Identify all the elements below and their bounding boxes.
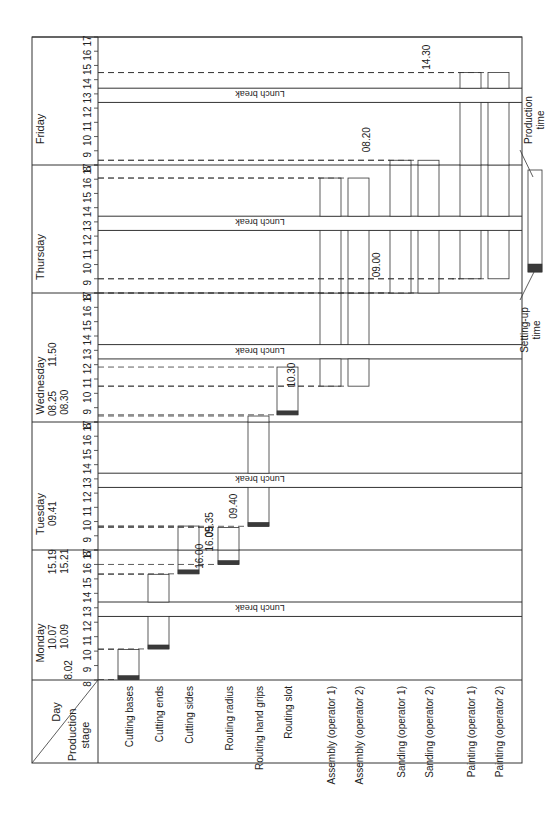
time-annotation: 10.09	[59, 623, 70, 648]
task-bar	[218, 527, 239, 550]
hour-tick-label: 8	[82, 423, 93, 429]
hour-tick-label: 16	[82, 562, 93, 574]
day-label-monday: Monday	[34, 623, 46, 663]
task-bar	[348, 359, 369, 386]
task-bar	[418, 160, 439, 165]
hour-tick-label: 15	[82, 63, 93, 75]
hour-tick-label: 11	[82, 377, 93, 388]
task-bar	[390, 165, 411, 216]
hour-tick-label: 11	[82, 121, 93, 132]
hour-tick-label: 8	[82, 166, 93, 172]
time-annotation: 8.02	[63, 660, 74, 680]
setup-block	[178, 570, 199, 574]
hour-tick-label: 9	[82, 280, 93, 286]
time-annotation: 10.07	[47, 624, 58, 649]
stage-label: Cutting ends	[154, 686, 165, 742]
setup-block	[118, 676, 139, 680]
task-bar	[320, 230, 341, 293]
task-bar	[118, 649, 139, 679]
task-bar	[488, 165, 509, 216]
stage-label: Routing radius	[224, 686, 235, 750]
task-bar	[390, 230, 411, 293]
hour-tick-label: 10	[82, 391, 93, 403]
time-annotation: 10.30	[286, 362, 297, 387]
hour-tick-label: 17	[82, 35, 93, 47]
task-bar	[460, 165, 481, 216]
hour-tick-label: 14	[82, 78, 93, 90]
task-bar	[248, 416, 269, 422]
hour-tick-label: 14	[82, 591, 93, 603]
hour-tick-label: 11	[82, 506, 93, 517]
stage-label: Sanding (operator 2)	[424, 686, 435, 778]
lunch-break-label: Lunch break	[235, 89, 285, 99]
hour-tick-label: 10	[82, 135, 93, 147]
day-label-friday: Friday	[34, 113, 46, 144]
hour-tick-label: 11	[82, 635, 93, 646]
hour-tick-label: 9	[82, 537, 93, 543]
hour-tick-label: 10	[82, 263, 93, 275]
hour-tick-label: 15	[82, 448, 93, 460]
time-annotation: 09.40	[228, 493, 239, 518]
hour-tick-label: 14	[82, 334, 93, 346]
hour-tick-label: 14	[82, 463, 93, 475]
stage-label: Cutting sides	[184, 686, 195, 744]
setup-block	[218, 560, 239, 564]
task-bar	[460, 73, 481, 89]
stage-label: Assembly (operator 2)	[354, 686, 365, 784]
setup-block	[148, 645, 169, 649]
hour-tick-label: 12	[82, 491, 93, 503]
time-annotation: 15.21	[59, 548, 70, 573]
task-bar	[418, 165, 439, 216]
stage-label: Cutting bases	[124, 686, 135, 747]
corner-stage-label: Production	[66, 709, 78, 762]
gantt-chart: DayProductionstageMonday8910111213141516…	[0, 0, 556, 830]
hour-tick-label: 12	[82, 234, 93, 246]
legend-production-label: time	[535, 110, 546, 129]
task-bar	[488, 230, 509, 278]
lunch-break-label: Lunch break	[235, 474, 285, 484]
legend-production-label: Production	[523, 96, 534, 144]
time-annotation: 15.19	[47, 549, 58, 574]
time-annotation: 09.35	[204, 512, 215, 537]
legend-setup-label: Setting-up	[519, 307, 530, 353]
task-bar	[390, 160, 411, 165]
stage-label: Sanding (operator 1)	[396, 686, 407, 778]
time-annotation: 08.30	[59, 389, 70, 414]
setup-block	[277, 411, 298, 415]
hour-tick-label: 12	[82, 620, 93, 632]
setup-block	[248, 522, 269, 526]
hour-tick-label: 9	[82, 408, 93, 414]
legend-setup-block	[528, 264, 542, 272]
stage-label: Routing hand grips	[254, 686, 265, 770]
stage-label: Painting (operator 2)	[494, 686, 505, 777]
hour-tick-label: 15	[82, 320, 93, 332]
lunch-break-label: Lunch break	[235, 603, 285, 613]
hour-tick-label: 10	[82, 520, 93, 532]
task-bar	[488, 102, 509, 165]
hour-tick-label: 14	[82, 206, 93, 218]
gantt-chart-svg: DayProductionstageMonday8910111213141516…	[0, 0, 556, 830]
hour-tick-label: 9	[82, 666, 93, 672]
time-annotation: 08.20	[361, 127, 372, 152]
task-bar	[320, 359, 341, 386]
stage-label: Painting (operator 1)	[466, 686, 477, 777]
lunch-break-label: Lunch break	[235, 346, 285, 356]
task-bar	[348, 293, 369, 345]
task-bar	[320, 293, 341, 345]
task-bar	[460, 230, 481, 278]
task-bar	[348, 178, 369, 216]
task-bar	[418, 230, 439, 293]
hour-tick-label: 10	[82, 649, 93, 661]
task-bar	[148, 616, 169, 649]
hour-tick-label: 8	[82, 294, 93, 300]
task-bar	[488, 73, 509, 89]
hour-tick-label: 12	[82, 363, 93, 375]
hour-tick-label: 11	[82, 249, 93, 260]
hour-tick-label: 13	[82, 348, 93, 360]
hour-tick-label: 15	[82, 577, 93, 589]
corner-diagonal	[32, 680, 98, 763]
hour-tick-label: 16	[82, 177, 93, 189]
hour-tick-label: 8	[82, 681, 93, 687]
hour-tick-label: 16	[82, 434, 93, 446]
task-bar	[320, 178, 341, 216]
